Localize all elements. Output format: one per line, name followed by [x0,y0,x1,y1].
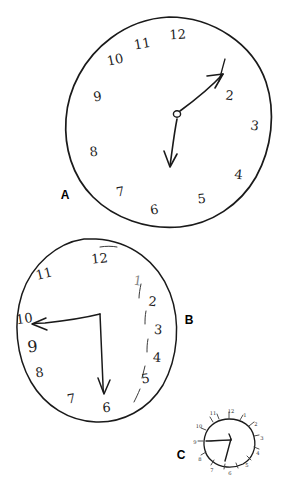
panel-label-a: A [61,188,70,202]
clock-b-numeral-10: 10 [15,310,33,327]
clock-a-numeral-11: 11 [133,35,152,53]
clock-c-numeral-4: 4 [256,450,260,456]
clock-c-numeral-6: 6 [228,470,231,476]
panel-label-c: C [177,448,186,462]
clock-b-numeral-11: 11 [34,264,54,283]
clock-a-numeral-3: 3 [249,118,259,134]
clock-b-numeral-3: 3 [154,322,163,338]
clock-drawing-figure: 12 2 3 4 5 6 7 8 9 10 11 A [0,0,285,490]
clock-b-numeral-12: 12 [91,250,109,267]
clock-b-group: 12 1 2 3 4 5 6 7 8 9 10 11 B [15,239,194,422]
clock-c-numeral-1: 1 [243,412,246,418]
clock-c-numeral-3: 3 [260,435,263,441]
clock-b-numeral-9: 9 [26,337,38,357]
clock-a-numeral-8: 8 [89,144,99,160]
clock-c-numeral-5: 5 [245,462,248,468]
clock-c-hand-upper-stroke [229,434,231,440]
clock-c-hand-short [225,439,231,461]
clock-a-numeral-6: 6 [149,201,160,217]
clock-a-center-hub [173,111,180,117]
clock-a-numeral-2: 2 [225,88,235,104]
clock-c-numeral-11: 11 [210,410,217,416]
clock-a-group: 12 2 3 4 5 6 7 8 9 10 11 A [61,17,272,227]
panel-label-b: B [185,313,194,327]
clock-drawings-svg: 12 2 3 4 5 6 7 8 9 10 11 A [0,0,285,490]
clock-c-numeral-9: 9 [193,439,196,445]
clock-b-hand-to-6 [100,314,104,393]
clock-b-numeral-7: 7 [66,390,77,406]
clock-a-numeral-12: 12 [169,26,187,42]
clock-b-numeral-6: 6 [102,400,111,416]
clock-c-numeral-10: 10 [196,423,203,429]
clock-b-numeral-4: 4 [153,350,162,365]
clock-c-numeral-12: 12 [228,408,235,414]
clock-a-numeral-9: 9 [92,89,102,105]
clock-a-numeral-4: 4 [234,167,244,183]
clock-c-numeral-8: 8 [198,456,201,462]
clock-a-hand-long [180,74,223,111]
clock-b-numeral-5: 5 [140,371,150,387]
clock-a-numeral-5: 5 [197,191,207,207]
clock-b-numeral-8: 8 [34,365,44,381]
clock-b-numeral-1: 1 [132,273,142,289]
clock-a-numeral-10: 10 [105,51,124,69]
clock-c-hand-long [206,440,231,441]
clock-a-numerals: 12 2 3 4 5 6 7 8 9 10 11 [89,26,260,217]
clock-c-numeral-7: 7 [210,467,213,473]
clock-c-numeral-2: 2 [254,421,257,427]
clock-b-numeral-2: 2 [148,294,158,310]
clock-a-numeral-7: 7 [115,183,126,199]
clock-c-group: 12 1 2 3 4 5 6 7 8 9 10 11 C [177,408,264,476]
clock-a-dial-circle [66,17,272,227]
